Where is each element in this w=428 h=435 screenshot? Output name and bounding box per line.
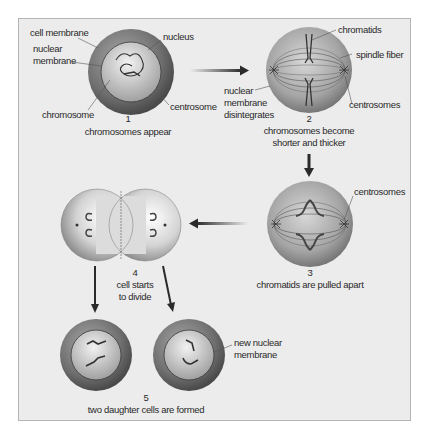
label-nuclear-disintegrates-line2: membrane xyxy=(224,97,267,109)
arrow-down-icon xyxy=(304,154,314,177)
label-chromatids: chromatids xyxy=(338,24,381,36)
cell-stage-3 xyxy=(267,181,353,267)
stage-caption-1: chromosomes appear xyxy=(78,126,178,138)
stage-number-5: 5 xyxy=(96,392,196,404)
stage-caption-4-line2: to divide xyxy=(105,291,165,303)
label-nuclear-disintegrates-line1: nuclear xyxy=(224,85,253,97)
label-nuclear-membrane-line1: nuclear xyxy=(33,43,62,55)
arrow-left-icon xyxy=(189,219,248,229)
label-nucleus: nucleus xyxy=(163,31,194,43)
cell-stage-4 xyxy=(61,189,181,261)
stage-caption-3: chromatids are pulled apart xyxy=(240,279,380,291)
label-centrosomes-stage2: centrosomes xyxy=(349,99,400,111)
daughter-cell-right xyxy=(153,319,232,391)
label-centrosome: centrosome xyxy=(170,101,217,113)
stage-number-3: 3 xyxy=(260,267,360,279)
cell-stage-1 xyxy=(72,29,174,115)
stage-caption-2-line1: chromosomes become xyxy=(249,125,369,137)
label-new-nuclear-line1: new nuclear xyxy=(234,337,282,349)
label-nuclear-membrane-line2: membrane xyxy=(33,55,76,67)
cell-stage-2 xyxy=(255,27,352,113)
stage-number-2: 2 xyxy=(259,113,359,125)
arrow-right-icon xyxy=(190,66,249,76)
daughter-cell-left xyxy=(60,319,132,391)
stage-caption-4-line1: cell starts xyxy=(105,279,165,291)
label-new-nuclear-line2: membrane xyxy=(234,349,277,361)
arrow-down-left-branch-icon xyxy=(91,266,99,313)
stage-number-4: 4 xyxy=(105,267,165,279)
stage-caption-2-line2: shorter and thicker xyxy=(249,137,369,149)
label-centrosomes-stage3: centrosomes xyxy=(354,186,405,198)
label-cell-membrane: cell membrane xyxy=(30,27,88,39)
label-spindle-fiber: spindle fiber xyxy=(356,49,403,61)
stage-caption-5: two daughter cells are formed xyxy=(76,404,216,416)
stage-number-1: 1 xyxy=(88,113,168,125)
label-chromosome: chromosome xyxy=(42,109,94,121)
